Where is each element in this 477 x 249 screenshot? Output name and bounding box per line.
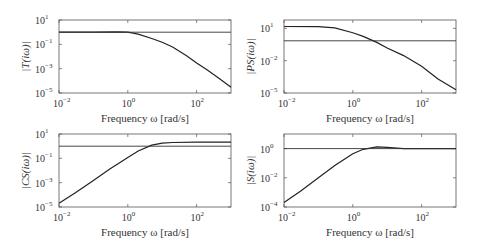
axes-box <box>284 20 456 93</box>
y-tick-label: 10−4 <box>260 200 278 213</box>
magnitude-curve <box>284 27 456 90</box>
y-tick-label: 101 <box>260 21 274 34</box>
magnitude-curve <box>59 142 231 203</box>
x-axis-label: Frequency ω [rad/s] <box>326 112 414 124</box>
x-tick-label: 102 <box>191 96 205 109</box>
x-axis-label: Frequency ω [rad/s] <box>101 226 189 238</box>
y-tick-label: 10−1 <box>35 151 53 164</box>
subplot-s: 10−210010210010−210−4Frequency ω [rad/s]… <box>244 134 456 238</box>
magnitude-curve <box>59 32 231 87</box>
x-tick-label: 102 <box>416 96 430 109</box>
x-tick-label: 10−2 <box>53 210 71 223</box>
y-tick-label: 101 <box>35 127 49 140</box>
x-tick-label: 102 <box>191 210 205 223</box>
x-tick-label: 100 <box>347 210 361 223</box>
y-tick-label: 10−5 <box>35 200 53 213</box>
magnitude-curve <box>284 147 456 203</box>
axes-box <box>284 134 456 207</box>
x-tick-label: 100 <box>347 96 361 109</box>
x-tick-label: 100 <box>122 96 136 109</box>
x-tick-label: 100 <box>122 210 136 223</box>
y-tick-label: 101 <box>35 13 49 26</box>
subplot-ps: 10−210010210110−210−5Frequency ω [rad/s]… <box>244 20 456 124</box>
x-tick-label: 10−2 <box>278 96 296 109</box>
subplot-t: 10−210010210110−110−310−5Frequency ω [ra… <box>19 13 231 124</box>
y-tick-label: 10−3 <box>35 176 53 189</box>
bode-magnitude-figure: 10−210010210110−110−310−5Frequency ω [ra… <box>0 0 477 249</box>
y-tick-label: 10−5 <box>260 86 278 99</box>
y-tick-label: 10−5 <box>35 86 53 99</box>
y-tick-label: 10−3 <box>35 62 53 75</box>
x-tick-label: 10−2 <box>278 210 296 223</box>
y-tick-label: 10−2 <box>260 171 278 184</box>
y-axis-label: |PS(iω)| <box>244 38 257 74</box>
axes-box <box>59 20 231 93</box>
subplot-cs: 10−210010210110−110−310−5Frequency ω [ra… <box>19 127 231 238</box>
y-tick-label: 10−1 <box>35 37 53 50</box>
x-tick-label: 102 <box>416 210 430 223</box>
x-tick-label: 10−2 <box>53 96 71 109</box>
y-axis-label: |S(iω)| <box>244 156 257 186</box>
x-axis-label: Frequency ω [rad/s] <box>101 112 189 124</box>
y-tick-label: 10−2 <box>260 54 278 67</box>
x-axis-label: Frequency ω [rad/s] <box>326 226 414 238</box>
y-tick-label: 100 <box>260 142 274 155</box>
y-axis-label: |T(iω)| <box>19 41 32 71</box>
axes-box <box>59 134 231 207</box>
y-axis-label: |CS(iω)| <box>19 152 32 189</box>
